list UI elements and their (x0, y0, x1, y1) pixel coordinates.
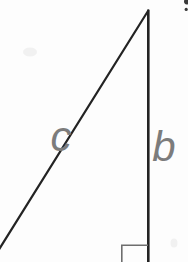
hypotenuse-label: c (51, 113, 72, 160)
paper-smudge (23, 48, 37, 57)
triangle-figure: c b (0, 0, 188, 262)
paper-smudge (171, 239, 178, 248)
vertical-leg-label: b (152, 123, 175, 170)
triangle-figure-canvas: c b (0, 0, 188, 262)
corner-speck-icon (185, 8, 188, 11)
